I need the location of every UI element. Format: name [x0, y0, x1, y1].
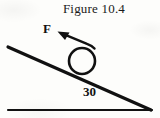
incline-line — [8, 47, 151, 110]
angle-label: 30° — [83, 85, 100, 98]
physics-diagram-svg — [0, 0, 160, 118]
degree-symbol-icon: ° — [96, 83, 100, 93]
figure-container: Figure 10.4 F 30° — [0, 0, 160, 118]
ball-circle — [69, 48, 95, 74]
force-arrow-shaft — [64, 34, 95, 48]
force-label: F — [43, 22, 51, 35]
angle-value: 30 — [83, 84, 96, 99]
